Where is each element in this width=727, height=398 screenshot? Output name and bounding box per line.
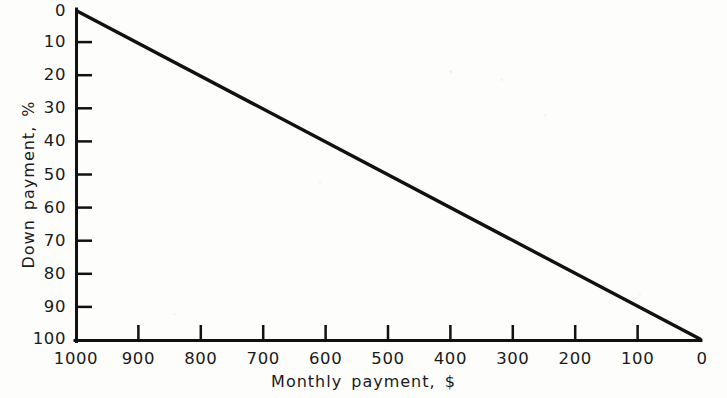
data-line-series-0	[77, 11, 700, 339]
y-tick-label: 0	[6, 3, 66, 20]
y-tick-label: 10	[6, 34, 66, 51]
x-tick-label: 1000	[54, 351, 98, 368]
x-tick-label: 0	[696, 351, 707, 368]
y-axis-ticks	[78, 42, 92, 307]
y-tick-label: 90	[6, 299, 66, 316]
x-tick-label: 600	[309, 351, 342, 368]
x-tick-label: 300	[496, 351, 529, 368]
x-tick-label: 400	[434, 351, 467, 368]
x-tick-label: 500	[371, 351, 404, 368]
x-axis-title: Monthly payment, $	[0, 372, 727, 391]
y-tick-label: 100	[0, 331, 66, 348]
x-tick-label: 700	[247, 351, 280, 368]
x-tick-label: 100	[621, 351, 654, 368]
x-axis-ticks	[138, 325, 637, 339]
x-tick-label: 200	[559, 351, 592, 368]
plot-area	[0, 0, 727, 398]
y-tick-label: 20	[6, 67, 66, 84]
y-axis-title: Down payment, %	[19, 95, 38, 275]
x-tick-label: 900	[122, 351, 155, 368]
chart-figure: 0 10 20 30 40 50 60 70 80 90 100 1000 90…	[0, 0, 727, 398]
x-tick-label: 800	[184, 351, 217, 368]
